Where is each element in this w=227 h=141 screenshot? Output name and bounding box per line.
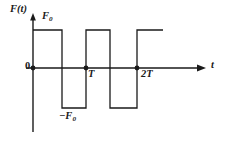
x-axis bbox=[26, 65, 206, 72]
marker-origin bbox=[31, 66, 36, 71]
plot-canvas bbox=[0, 0, 227, 141]
amplitude-positive-label: F0 bbox=[42, 11, 53, 23]
amplitude-negative-label: −F0 bbox=[59, 111, 76, 123]
amplitude-positive-subscript: 0 bbox=[49, 15, 53, 23]
x-axis-label: t bbox=[211, 60, 214, 71]
x-tick-label-2T: 2T bbox=[141, 69, 153, 80]
amplitude-positive-main: F bbox=[42, 10, 49, 21]
origin-label: 0 bbox=[25, 61, 30, 72]
y-axis bbox=[30, 13, 36, 132]
marker-2T bbox=[135, 66, 140, 71]
x-tick-label-T: T bbox=[88, 69, 94, 80]
square-wave-figure: F(t) F0 0 T 2T −F0 t bbox=[0, 0, 227, 141]
y-axis-arrowhead bbox=[30, 13, 36, 21]
amplitude-negative-main: −F bbox=[59, 110, 72, 121]
x-axis-arrowhead bbox=[197, 65, 206, 72]
amplitude-negative-subscript: 0 bbox=[72, 115, 76, 123]
y-axis-label: F(t) bbox=[10, 4, 27, 15]
